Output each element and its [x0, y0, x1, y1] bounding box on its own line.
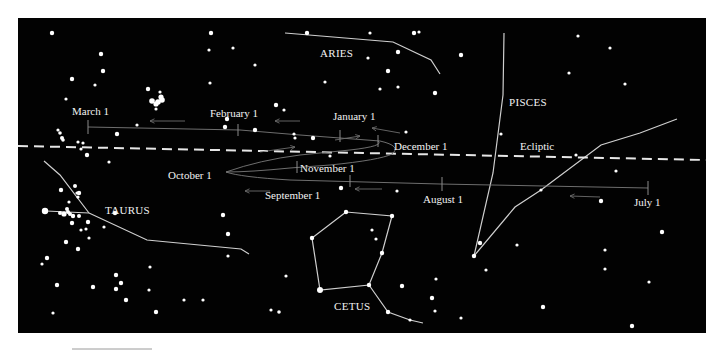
- date-label: September 1: [265, 189, 320, 201]
- star: [147, 288, 150, 291]
- star: [396, 50, 400, 54]
- star: [367, 283, 371, 287]
- star: [119, 281, 123, 285]
- star: [158, 90, 161, 93]
- star: [42, 208, 48, 214]
- star: [58, 211, 62, 215]
- star: [292, 132, 295, 135]
- star: [370, 228, 373, 231]
- star: [660, 230, 664, 234]
- star: [603, 267, 606, 270]
- star: [599, 199, 603, 203]
- star: [484, 268, 487, 271]
- star: [114, 287, 118, 291]
- star: [395, 189, 398, 192]
- star: [408, 318, 411, 321]
- star: [40, 262, 43, 265]
- star: [107, 160, 110, 163]
- star: [71, 214, 75, 218]
- star: [61, 138, 65, 142]
- star: [77, 214, 81, 218]
- star: [253, 63, 256, 66]
- star: [154, 310, 158, 314]
- star: [231, 46, 234, 49]
- star: [56, 128, 59, 131]
- star: [55, 283, 59, 287]
- star: [574, 153, 577, 156]
- star: [623, 82, 626, 85]
- star: [386, 69, 390, 73]
- star: [374, 237, 377, 240]
- star: [576, 34, 579, 37]
- star: [85, 153, 89, 157]
- star: [328, 154, 331, 157]
- star: [81, 141, 84, 144]
- star: [433, 309, 436, 312]
- star: [154, 107, 157, 110]
- star: [434, 277, 437, 280]
- star: [79, 228, 82, 231]
- star: [305, 31, 309, 35]
- star: [146, 87, 150, 91]
- star: [430, 296, 434, 300]
- star: [317, 287, 323, 293]
- star: [76, 247, 80, 251]
- star: [459, 53, 463, 57]
- star: [226, 254, 229, 257]
- star: [223, 125, 227, 129]
- star: [417, 30, 420, 33]
- star: [472, 254, 476, 258]
- star: [84, 227, 87, 230]
- star: [70, 77, 74, 81]
- star: [64, 97, 67, 100]
- star: [386, 310, 390, 314]
- star: [153, 101, 158, 106]
- star: [323, 80, 326, 83]
- star: [182, 298, 185, 301]
- star: [433, 91, 437, 95]
- star: [603, 248, 606, 251]
- constellation-label-taurus: TAURUS: [105, 204, 150, 216]
- star: [76, 140, 79, 143]
- star: [366, 56, 369, 59]
- star: [61, 211, 66, 216]
- star: [221, 213, 225, 217]
- star: [64, 240, 68, 244]
- star: [277, 310, 281, 314]
- star: [87, 236, 90, 239]
- star: [91, 285, 95, 289]
- star: [404, 130, 407, 133]
- star: [209, 31, 213, 35]
- star: [400, 284, 404, 288]
- constellation-label-pisces: PISCES: [509, 96, 547, 108]
- star: [59, 188, 63, 192]
- star: [207, 48, 210, 51]
- date-label: August 1: [423, 193, 463, 205]
- star: [79, 147, 82, 150]
- star: [115, 132, 119, 136]
- star: [158, 94, 163, 99]
- star: [93, 83, 96, 86]
- date-label: January 1: [333, 110, 375, 122]
- star: [282, 108, 285, 111]
- date-label: February 1: [210, 107, 258, 119]
- star: [390, 214, 394, 218]
- ecliptic-label: Ecliptic: [520, 140, 554, 152]
- star: [378, 87, 381, 90]
- star: [102, 225, 105, 228]
- date-label: December 1: [394, 140, 447, 152]
- star: [148, 265, 151, 268]
- star: [412, 31, 416, 35]
- date-label: November 1: [300, 162, 355, 174]
- star: [101, 69, 105, 73]
- star: [539, 188, 542, 191]
- date-label: October 1: [168, 169, 212, 181]
- star: [269, 308, 272, 311]
- star: [75, 191, 78, 194]
- star: [51, 311, 54, 314]
- star: [50, 31, 54, 35]
- star: [311, 136, 315, 140]
- star: [567, 71, 570, 74]
- date-label: July 1: [634, 196, 661, 208]
- star: [284, 274, 287, 277]
